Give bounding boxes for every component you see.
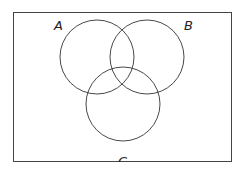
set-b-circle (110, 20, 184, 94)
set-a-circle (60, 20, 134, 94)
set-c-circle (86, 67, 160, 141)
set-c-label: C (118, 154, 128, 169)
set-b-label: B (184, 18, 193, 33)
universe-rectangle (14, 13, 232, 162)
venn-diagram: A B C (0, 0, 243, 172)
set-a-label: A (53, 18, 63, 33)
